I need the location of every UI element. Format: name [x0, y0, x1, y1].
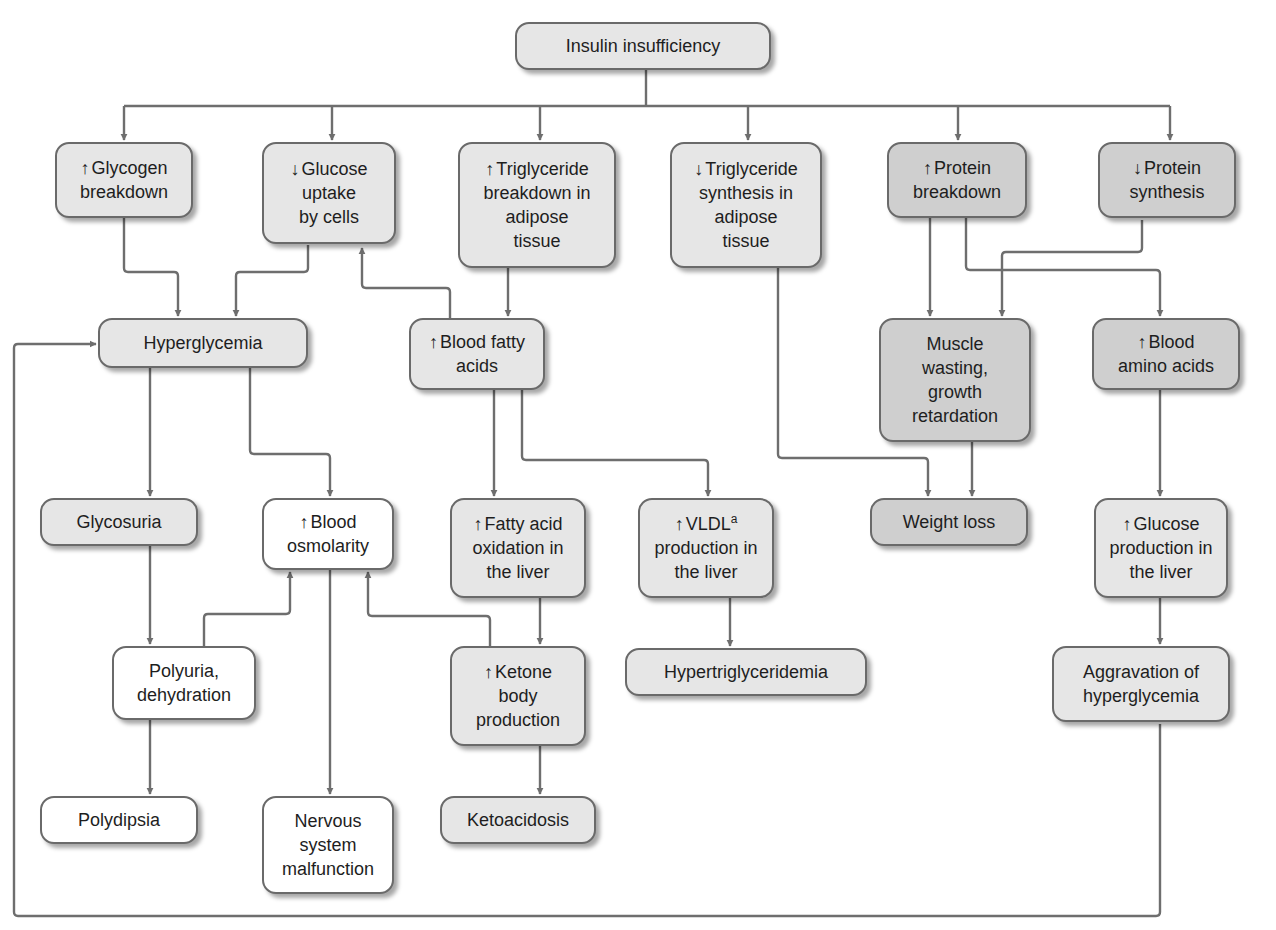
down-arrow-icon: ↓ — [1133, 158, 1142, 178]
node-label: Hyperglycemia — [143, 331, 262, 355]
node-label-rest: production in the liver — [654, 538, 757, 582]
node-polyuria-dehydration: Polyuria, dehydration — [112, 646, 256, 720]
down-arrow-icon: ↓ — [694, 159, 703, 179]
node-label: Muscle wasting, growth retardation — [912, 332, 998, 428]
node-label: Triglyceride breakdown in adipose tissue — [483, 159, 590, 251]
node-aggravation-of-hyperglycemia: Aggravation of hyperglycemia — [1052, 646, 1230, 722]
up-arrow-icon: ↑ — [429, 332, 438, 352]
node-triglyceride-synthesis: ↓Triglyceride synthesis in adipose tissu… — [670, 142, 822, 268]
node-nervous-system-malfunction: Nervous system malfunction — [262, 796, 394, 894]
connector-bfa-uptake — [362, 248, 450, 318]
node-glycosuria: Glycosuria — [40, 498, 198, 546]
up-arrow-icon: ↑ — [485, 159, 494, 179]
node-label: Weight loss — [903, 510, 996, 534]
connector-ps-muscle — [1002, 220, 1142, 316]
node-hypertriglyceridemia: Hypertriglyceridemia — [625, 648, 867, 696]
node-label: Polydipsia — [78, 808, 160, 832]
node-insulin-insufficiency: Insulin insufficiency — [515, 22, 771, 70]
connector-pb-amino — [966, 218, 1160, 316]
footnote-marker: a — [731, 512, 738, 526]
node-label: Aggravation of hyperglycemia — [1083, 660, 1199, 708]
node-label: Glucose uptake by cells — [299, 159, 368, 227]
connector-uptake-hyperglycemia — [236, 245, 308, 316]
node-muscle-wasting: Muscle wasting, growth retardation — [879, 318, 1031, 442]
up-arrow-icon: ↑ — [1137, 332, 1146, 352]
up-arrow-icon: ↑ — [1122, 514, 1131, 534]
up-arrow-icon: ↑ — [484, 662, 493, 682]
node-label: Glycogen breakdown — [80, 158, 168, 202]
node-label: Nervous system malfunction — [282, 809, 374, 881]
up-arrow-icon: ↑ — [299, 512, 308, 532]
node-vldl-production: ↑VLDLa production in the liver — [638, 498, 774, 598]
node-label: Insulin insufficiency — [566, 34, 721, 58]
up-arrow-icon: ↑ — [923, 158, 932, 178]
up-arrow-icon: ↑ — [80, 158, 89, 178]
up-arrow-icon: ↑ — [675, 514, 684, 534]
down-arrow-icon: ↓ — [290, 159, 299, 179]
node-label: Glycosuria — [76, 510, 161, 534]
node-ketone-body-production: ↑Ketone body production — [450, 646, 586, 746]
node-triglyceride-breakdown: ↑Triglyceride breakdown in adipose tissu… — [458, 142, 616, 268]
node-label: Blood fatty acids — [440, 332, 525, 376]
node-blood-fatty-acids: ↑Blood fatty acids — [409, 318, 545, 390]
connector-bfa-vldl — [522, 390, 708, 496]
connector-layer — [0, 0, 1276, 930]
node-weight-loss: Weight loss — [870, 498, 1028, 546]
node-ketoacidosis: Ketoacidosis — [440, 796, 596, 844]
node-polydipsia: Polydipsia — [40, 796, 198, 844]
node-label: Triglyceride synthesis in adipose tissue — [699, 159, 798, 251]
node-protein-breakdown: ↑Protein breakdown — [887, 142, 1027, 218]
node-glycogen-breakdown: ↑Glycogen breakdown — [55, 142, 193, 218]
connector-glycogen-hyperglycemia — [124, 218, 178, 316]
node-label: Polyuria, dehydration — [137, 659, 231, 707]
up-arrow-icon: ↑ — [473, 514, 482, 534]
insulin-insufficiency-diagram: Insulin insufficiency ↑Glycogen breakdow… — [0, 0, 1276, 930]
node-blood-amino-acids: ↑Blood amino acids — [1092, 318, 1240, 390]
node-glucose-uptake: ↓Glucose uptake by cells — [262, 142, 396, 244]
node-protein-synthesis: ↓Protein synthesis — [1098, 142, 1236, 218]
connector-hyper-osmolarity — [250, 368, 330, 496]
node-label: Blood amino acids — [1118, 332, 1214, 376]
node-label: Hypertriglyceridemia — [664, 660, 828, 684]
node-label: VLDL — [686, 514, 731, 534]
node-label: Fatty acid oxidation in the liver — [472, 514, 563, 582]
node-label: Ketoacidosis — [467, 808, 569, 832]
node-glucose-production: ↑Glucose production in the liver — [1094, 498, 1228, 598]
connector-polyuria-osmolarity — [204, 572, 290, 646]
node-fatty-acid-oxidation: ↑Fatty acid oxidation in the liver — [450, 498, 586, 598]
node-hyperglycemia: Hyperglycemia — [98, 318, 308, 368]
node-blood-osmolarity: ↑Blood osmolarity — [262, 498, 394, 570]
